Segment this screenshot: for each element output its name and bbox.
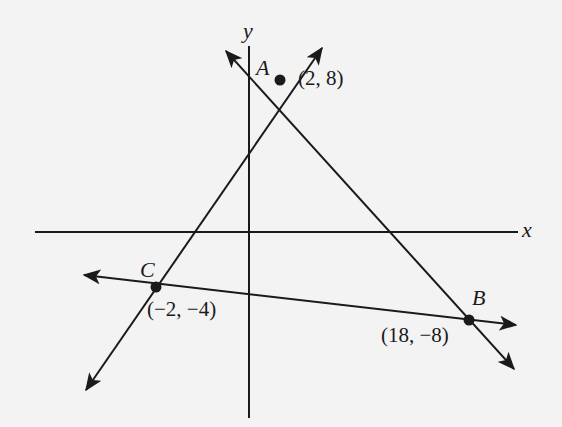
point-a-label: A [256, 55, 269, 81]
point-c-coordinates: (−2, −4) [147, 297, 216, 322]
line-ac [86, 48, 322, 390]
point-a-dot [275, 75, 286, 86]
point-c-dot [151, 282, 162, 293]
y-axis-label: y [243, 18, 253, 44]
point-a-coordinates: (2, 8) [298, 66, 344, 91]
x-axis-label: x [522, 217, 532, 243]
point-b-label: B [472, 285, 485, 311]
point-b-coordinates: (18, −8) [381, 323, 449, 348]
point-b-dot [464, 315, 475, 326]
diagram-canvas [0, 0, 562, 427]
coordinate-plane-diagram: y x A (2, 8) B (18, −8) C (−2, −4) [0, 0, 562, 427]
point-c-label: C [140, 257, 155, 283]
